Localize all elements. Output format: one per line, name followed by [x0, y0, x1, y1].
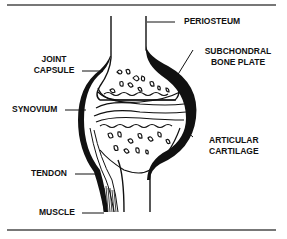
leader-subchondral: [177, 50, 193, 76]
label-subchondral-line2: BONE PLATE: [198, 57, 278, 68]
joint-illustration: [0, 0, 287, 239]
joint-space: [94, 103, 186, 116]
label-synovium: SYNOVIUM: [12, 104, 57, 115]
label-articular-line2: CARTILAGE: [209, 146, 259, 157]
label-periosteum: PERIOSTEUM: [184, 16, 240, 27]
lower-bone: [118, 160, 150, 212]
lower-epiphysis: [96, 118, 184, 174]
label-joint-capsule-line1: JOINT: [28, 54, 80, 65]
label-synovium-text: SYNOVIUM: [12, 104, 57, 115]
label-articular-line1: ARTICULAR: [209, 135, 259, 146]
label-joint-capsule-line2: CAPSULE: [28, 65, 80, 76]
label-periosteum-text: PERIOSTEUM: [184, 16, 240, 27]
label-muscle-text: MUSCLE: [39, 207, 75, 218]
label-joint-capsule: JOINT CAPSULE: [28, 54, 80, 76]
label-muscle: MUSCLE: [39, 207, 75, 218]
label-subchondral-line1: SUBCHONDRAL: [198, 46, 278, 57]
label-tendon-text: TENDON: [31, 168, 67, 179]
label-tendon: TENDON: [31, 168, 67, 179]
label-articular-cartilage: ARTICULAR CARTILAGE: [209, 135, 259, 157]
label-subchondral-bone-plate: SUBCHONDRAL BONE PLATE: [198, 46, 278, 68]
